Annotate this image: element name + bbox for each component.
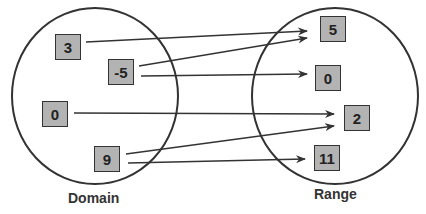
mapping-arrow bbox=[74, 113, 334, 114]
range-element-box: 0 bbox=[315, 65, 341, 91]
range-element-box: 2 bbox=[344, 105, 370, 131]
domain-element-box: 0 bbox=[42, 101, 68, 127]
mapping-arrow bbox=[141, 74, 307, 76]
domain-label: Domain bbox=[68, 190, 119, 206]
mapping-arrow bbox=[139, 38, 307, 66]
range-element-box: 11 bbox=[314, 145, 340, 171]
mapping-arrow bbox=[126, 126, 334, 154]
range-label: Range bbox=[314, 186, 357, 202]
range-element-box: 5 bbox=[320, 16, 346, 42]
domain-element-box: 3 bbox=[55, 34, 81, 60]
domain-element-box: 9 bbox=[94, 146, 120, 172]
domain-element-box: -5 bbox=[108, 59, 134, 85]
